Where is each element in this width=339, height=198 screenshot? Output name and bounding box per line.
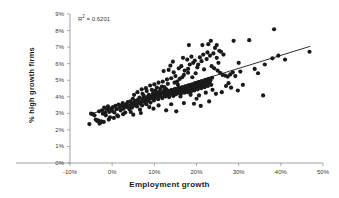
scatter-point — [156, 81, 160, 85]
scatter-point — [237, 61, 241, 65]
scatter-point — [140, 103, 144, 107]
scatter-point — [261, 93, 265, 97]
scatter-point — [131, 113, 135, 117]
scatter-point — [151, 107, 155, 111]
scatter-point — [163, 94, 167, 98]
scatter-point — [172, 70, 176, 74]
scatter-point — [112, 116, 116, 120]
scatter-point — [247, 38, 251, 42]
scatter-point — [152, 82, 156, 86]
scatter-point — [168, 64, 172, 68]
scatter-point — [135, 90, 139, 94]
scatter-point — [169, 76, 173, 80]
x-axis-title: Employment growth — [0, 180, 339, 189]
scatter-point — [200, 43, 204, 47]
scatter-point — [116, 114, 120, 118]
scatter-point — [164, 108, 168, 112]
scatter-point — [171, 60, 175, 64]
scatter-point — [233, 74, 237, 78]
scatter-point — [140, 87, 144, 91]
scatter-point — [145, 89, 149, 93]
scatter-point — [187, 43, 191, 47]
scatter-point — [272, 27, 276, 31]
scatter-point — [232, 39, 236, 43]
scatter-point — [205, 50, 209, 54]
x-tick-label: 20% — [182, 169, 212, 175]
data-points — [87, 27, 311, 126]
scatter-point — [209, 83, 213, 87]
scatter-point — [263, 62, 267, 66]
x-tick-label: 50% — [308, 169, 338, 175]
scatter-point — [189, 93, 193, 97]
x-tick-label: 30% — [224, 169, 254, 175]
scatter-point — [178, 94, 182, 98]
scatter-point — [253, 67, 257, 71]
y-tick-label: 6% — [44, 61, 64, 67]
scatter-point — [165, 77, 169, 81]
x-tick-label: 40% — [266, 169, 296, 175]
scatter-point — [206, 42, 210, 46]
scatter-point — [204, 91, 208, 95]
scatter-point — [214, 92, 218, 96]
scatter-point — [174, 109, 178, 113]
scatter-point — [147, 105, 151, 109]
scatter-point — [197, 93, 201, 97]
scatter-point — [189, 55, 193, 59]
scatter-point — [161, 79, 165, 83]
scatter-point — [121, 112, 125, 116]
scatter-point — [97, 122, 101, 126]
r-squared-annotation: R2 = 0.6201 — [78, 14, 110, 22]
scatter-chart: R2 = 0.6201 0%1%2%3%4%5%6%7%8%9% -10%0%1… — [0, 0, 339, 198]
scatter-point — [256, 71, 260, 75]
scatter-point — [153, 88, 157, 92]
scatter-point — [207, 99, 211, 103]
scatter-point — [221, 52, 225, 56]
scatter-point — [238, 70, 242, 74]
scatter-point — [173, 74, 177, 78]
scatter-point — [135, 104, 139, 108]
scatter-point — [192, 102, 196, 106]
scatter-point — [162, 85, 166, 89]
scatter-point — [194, 97, 198, 101]
x-axis-ticks — [70, 163, 323, 166]
scatter-point — [241, 83, 245, 87]
scatter-point — [104, 113, 108, 117]
scatter-point — [210, 88, 214, 92]
y-tick-label: 0% — [44, 160, 64, 166]
scatter-point — [185, 57, 189, 61]
scatter-point — [167, 93, 171, 97]
y-tick-label: 8% — [44, 28, 64, 34]
scatter-point — [182, 101, 186, 105]
y-tick-label: 1% — [44, 143, 64, 149]
scatter-point — [220, 90, 224, 94]
scatter-point — [87, 122, 91, 126]
scatter-point — [166, 82, 170, 86]
scatter-point — [190, 75, 194, 79]
scatter-point — [186, 67, 190, 71]
y-tick-label: 3% — [44, 110, 64, 116]
scatter-point — [199, 59, 203, 63]
scatter-point — [198, 55, 202, 59]
scatter-point — [158, 87, 162, 91]
scatter-point — [156, 103, 160, 107]
scatter-point — [140, 92, 144, 96]
y-axis-title: % high growth firms — [27, 47, 36, 123]
r-squared-value: = 0.6201 — [85, 16, 110, 22]
scatter-point — [307, 50, 311, 54]
y-axis-ticks — [67, 14, 70, 163]
x-tick-label: 10% — [139, 169, 169, 175]
scatter-point — [229, 86, 233, 90]
scatter-point — [226, 81, 230, 85]
y-tick-label: 4% — [44, 94, 64, 100]
scatter-point — [202, 67, 206, 71]
scatter-point — [199, 104, 203, 108]
scatter-point — [162, 69, 166, 73]
scatter-point — [172, 81, 176, 85]
y-tick-label: 2% — [44, 127, 64, 133]
scatter-point — [102, 120, 106, 124]
scatter-point — [181, 56, 185, 60]
scatter-point — [196, 62, 200, 66]
y-axis-title-wrapper: % high growth firms — [24, 0, 38, 170]
x-tick-label: 0% — [97, 169, 127, 175]
scatter-point — [139, 111, 143, 115]
